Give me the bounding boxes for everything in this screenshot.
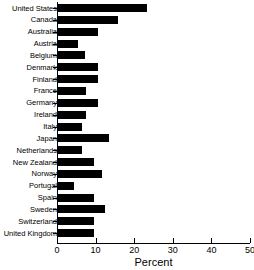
bar: [58, 40, 78, 48]
bar: [58, 194, 94, 202]
value-axis-line: [57, 243, 250, 244]
x-axis-title: Percent: [57, 256, 250, 269]
bar: [58, 205, 105, 213]
value-axis-tick-label: 10: [81, 245, 111, 256]
value-axis-tick: [173, 238, 174, 243]
category-axis-tick: [53, 127, 57, 128]
bar: [58, 158, 94, 166]
bar: [58, 229, 94, 237]
category-axis-tick: [53, 138, 57, 139]
value-axis-tick: [57, 238, 58, 243]
value-axis-tick-label: 30: [158, 245, 188, 256]
bar: [58, 182, 74, 190]
category-axis-tick: [53, 67, 57, 68]
value-axis-tick: [134, 238, 135, 243]
bar-chart: United StatesCanadaAustraliaAustriaBelgi…: [0, 0, 254, 270]
category-axis-tick: [53, 8, 57, 9]
category-axis-tick: [53, 20, 57, 21]
category-axis-tick: [53, 233, 57, 234]
value-axis-tick-label: 20: [119, 245, 149, 256]
bar: [58, 217, 94, 225]
category-axis-tick: [53, 221, 57, 222]
category-axis-tick: [53, 209, 57, 210]
bar: [58, 146, 82, 154]
value-axis-tick: [250, 238, 251, 243]
value-axis-tick-label: 40: [196, 245, 226, 256]
category-axis-tick: [53, 150, 57, 151]
value-axis-tick: [211, 238, 212, 243]
category-axis-tick: [53, 91, 57, 92]
category-axis-tick: [53, 174, 57, 175]
value-axis-tick-label: 50: [235, 245, 254, 256]
bar: [58, 51, 85, 59]
category-label: United Kingdom: [4, 229, 57, 238]
category-axis-tick: [53, 32, 57, 33]
category-label: Netherlands: [17, 146, 57, 155]
category-axis-tick: [53, 115, 57, 116]
category-axis-tick: [53, 55, 57, 56]
category-label: Switzerland: [18, 217, 57, 226]
bar: [58, 123, 82, 131]
category-axis-tick: [53, 79, 57, 80]
bar: [58, 28, 98, 36]
plot-area: United StatesCanadaAustraliaAustriaBelgi…: [0, 0, 254, 270]
bar: [58, 87, 86, 95]
bar: [58, 75, 98, 83]
bar: [58, 16, 118, 24]
bar: [58, 99, 98, 107]
category-label: New Zealand: [13, 158, 57, 167]
category-axis-tick: [53, 186, 57, 187]
value-axis-tick: [96, 238, 97, 243]
bar: [58, 4, 147, 12]
category-axis-tick: [53, 103, 57, 104]
value-axis-tick-label: 0: [42, 245, 72, 256]
category-label: United States: [12, 4, 57, 13]
bar: [58, 63, 98, 71]
bar: [58, 134, 109, 142]
category-axis-tick: [53, 198, 57, 199]
category-axis-tick: [53, 44, 57, 45]
bar: [58, 111, 86, 119]
category-axis-tick: [53, 162, 57, 163]
bar: [58, 170, 102, 178]
